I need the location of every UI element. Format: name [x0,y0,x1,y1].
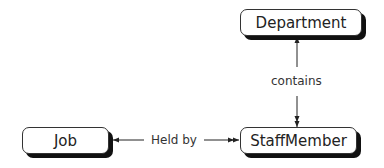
entity-job[interactable]: Job [22,127,109,154]
entity-label: StaffMember [250,132,347,150]
entity-staffmember[interactable]: StaffMember [240,127,357,154]
entity-label: Department [256,14,347,32]
entity-department[interactable]: Department [240,9,362,36]
entity-label: Job [54,132,77,150]
relationship-label-contains: contains [271,74,322,88]
arrowhead-single-icon [295,37,300,43]
relationship-label-held-by: Held by [151,133,197,147]
